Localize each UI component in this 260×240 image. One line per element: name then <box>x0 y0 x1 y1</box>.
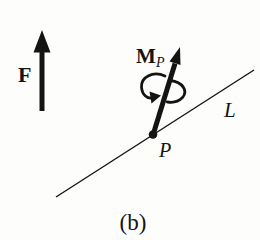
moment-label-subscript: P <box>155 55 165 70</box>
figure-caption: (b) <box>120 210 147 235</box>
rotation-curl-arrow-head <box>150 92 162 104</box>
moment-about-line-diagram: F L P M P (b) <box>0 0 260 240</box>
point-label: P <box>158 139 171 161</box>
moment-label: M P <box>136 44 165 70</box>
point-P-dot <box>149 130 158 139</box>
moment-arrow-head <box>170 47 181 65</box>
moment-label-main: M <box>136 44 156 68</box>
line-label: L <box>223 98 236 122</box>
force-label: F <box>18 62 31 87</box>
force-arrow-head <box>34 30 51 53</box>
figure-canvas: F L P M P (b) <box>0 0 260 240</box>
force-arrow <box>34 30 51 111</box>
